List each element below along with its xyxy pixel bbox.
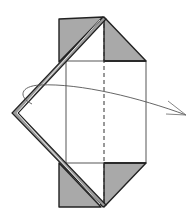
top-right-flap — [104, 17, 146, 61]
origami-diagram — [0, 0, 196, 223]
bottom-left-flap — [59, 163, 101, 207]
arrow-head-icon — [166, 101, 186, 115]
center-panel — [66, 61, 146, 163]
bottom-right-flap — [104, 163, 146, 207]
